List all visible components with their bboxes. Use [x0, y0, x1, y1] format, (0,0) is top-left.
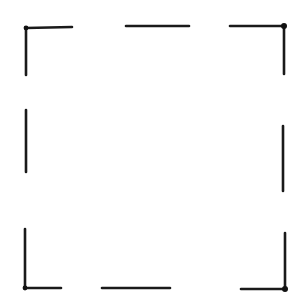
top-left-corner-horizontal-segment [26, 27, 72, 28]
top-right-dot [281, 23, 287, 29]
background [0, 0, 307, 302]
dashed-square-diagram [0, 0, 307, 302]
bottom-left-dot [23, 286, 28, 291]
bottom-right-dot [282, 286, 288, 292]
top-left-dot [24, 26, 29, 31]
